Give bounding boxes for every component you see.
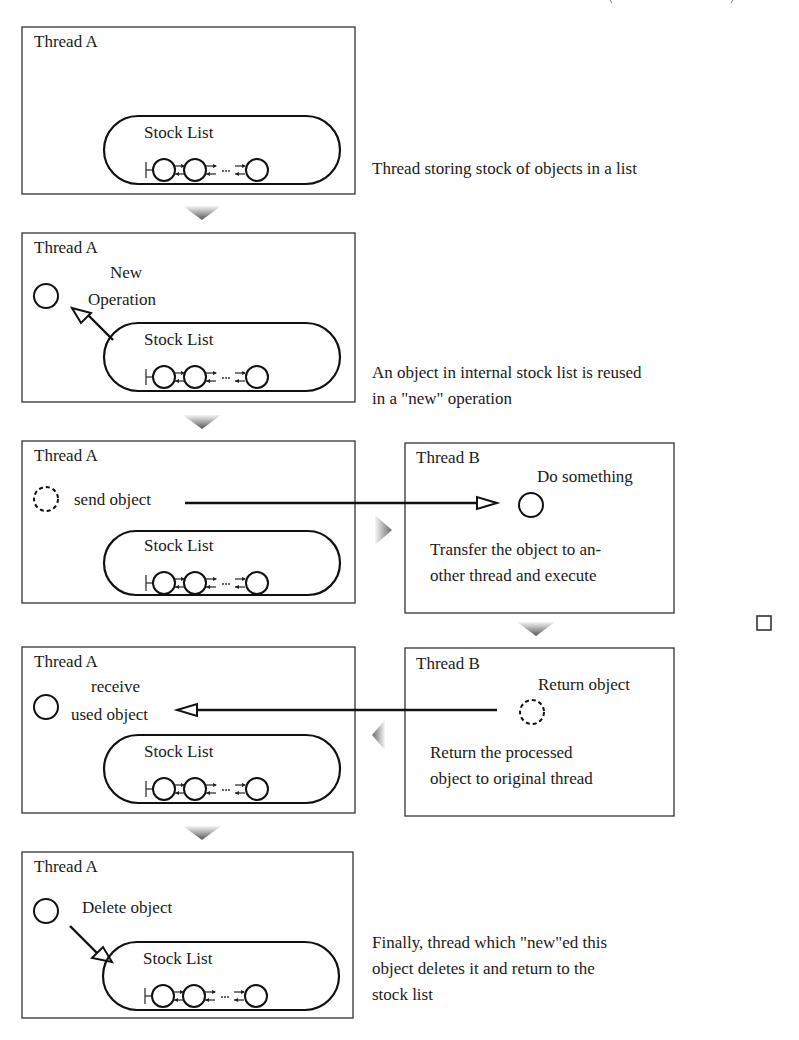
- page-header-fragment: [610, 0, 733, 3]
- action-label-line2: used object: [71, 705, 148, 724]
- step-2: Thread A New Operation Stock List An obj…: [22, 233, 642, 408]
- margin-checkbox[interactable]: [757, 616, 771, 630]
- step-description-line1: Return the processed: [430, 743, 573, 762]
- step-4: Thread A receive used object Stock List …: [22, 647, 674, 816]
- step-description-line2: other thread and execute: [430, 566, 597, 585]
- thread-b-box: [405, 648, 674, 816]
- step-description-line1: Transfer the object to an-: [430, 540, 602, 559]
- step-1: Thread A Stock List Thread storing stock…: [22, 27, 637, 194]
- flow-arrow-down-icon: [517, 622, 555, 636]
- step-description-line3: stock list: [372, 985, 433, 1004]
- stock-list-label: Stock List: [143, 949, 213, 968]
- flow-arrow-left-icon: [372, 720, 385, 750]
- object-icon: [34, 695, 58, 719]
- action-label-line1: receive: [91, 677, 140, 696]
- step-description-line2: in a "new" operation: [372, 389, 512, 408]
- thread-stock-diagram: Thread A Stock List Thread storing stock…: [0, 0, 799, 1040]
- action-label: send object: [74, 490, 151, 509]
- object-icon: [34, 899, 58, 923]
- action-label-line1: New: [110, 263, 143, 282]
- thread-label: Thread A: [34, 446, 98, 465]
- stock-list-label: Stock List: [144, 742, 214, 761]
- action-label: Do something: [537, 467, 633, 486]
- object-icon: [34, 284, 58, 308]
- stock-list-label: Stock List: [144, 123, 214, 142]
- flow-arrow-right-icon: [375, 515, 392, 545]
- step-description-line1: Finally, thread which "new"ed this: [372, 933, 607, 952]
- flow-arrow-down-icon: [183, 206, 221, 220]
- thread-label: Thread B: [416, 448, 480, 467]
- thread-label: Thread A: [34, 238, 98, 257]
- stock-list-label: Stock List: [144, 536, 214, 555]
- thread-label: Thread B: [416, 654, 480, 673]
- action-label: Delete object: [82, 898, 172, 917]
- step-description-line1: An object in internal stock list is reus…: [372, 363, 642, 382]
- step-description: Thread storing stock of objects in a lis…: [372, 159, 637, 178]
- flow-arrow-down-icon: [183, 826, 221, 840]
- flow-arrow-down-icon: [183, 415, 221, 429]
- sent-object-placeholder-icon: [34, 487, 58, 511]
- action-label: Return object: [538, 675, 630, 694]
- thread-label: Thread A: [34, 32, 98, 51]
- stock-list-label: Stock List: [144, 330, 214, 349]
- step-description-line2: object to original thread: [430, 769, 593, 788]
- step-3: Thread A send object Stock List Thread B…: [22, 441, 674, 613]
- thread-label: Thread A: [34, 857, 98, 876]
- returned-object-placeholder-icon: [520, 700, 544, 724]
- object-icon: [519, 493, 543, 517]
- step-description-line2: object deletes it and return to the: [372, 959, 595, 978]
- action-label-line2: Operation: [88, 290, 156, 309]
- thread-label: Thread A: [34, 652, 98, 671]
- step-5: Thread A Delete object Stock List Finall…: [22, 852, 607, 1018]
